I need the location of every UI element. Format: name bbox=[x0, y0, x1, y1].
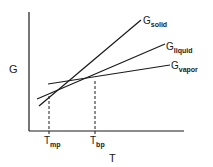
label-g-vapor: Gvapor bbox=[171, 60, 198, 74]
label-tbp: Tbp bbox=[90, 135, 105, 149]
label-g-solid: Gsolid bbox=[143, 15, 167, 28]
line-g-liquid bbox=[37, 44, 165, 99]
label-tmp: Tmp bbox=[44, 135, 61, 149]
label-g-liquid: Gliquid bbox=[166, 41, 192, 55]
y-axis-label: G bbox=[9, 63, 18, 75]
phase-diagram-chart: G T Gsolid Gliquid Gvapor Tmp Tbp bbox=[0, 0, 213, 167]
label-g-vapor-sub: vapor bbox=[179, 66, 198, 74]
label-g-liquid-sub: liquid bbox=[174, 47, 193, 55]
label-tbp-sub: bp bbox=[96, 141, 105, 149]
label-tmp-sub: mp bbox=[50, 141, 61, 149]
line-g-solid bbox=[39, 20, 141, 106]
label-g-solid-sub: solid bbox=[151, 21, 167, 28]
x-axis-label: T bbox=[109, 152, 116, 164]
